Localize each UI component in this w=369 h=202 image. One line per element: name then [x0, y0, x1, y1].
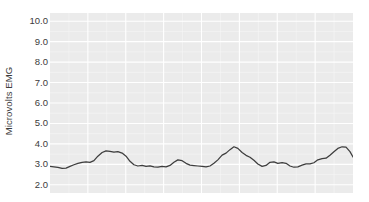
y-tick-label: 7.0	[16, 78, 48, 88]
y-tick-label: 4.0	[16, 139, 48, 149]
y-axis-title: Microvolts EMG	[0, 0, 16, 202]
y-tick-label: 2.0	[16, 180, 48, 190]
y-tick-label: 6.0	[16, 98, 48, 108]
plot-panel	[50, 13, 353, 193]
y-tick-label: 10.0	[16, 16, 48, 26]
y-axis-tick-labels: 10.09.08.07.06.05.04.03.02.0	[16, 0, 48, 202]
y-tick-label: 8.0	[16, 57, 48, 67]
emg-series-line	[50, 13, 353, 193]
y-tick-label: 3.0	[16, 159, 48, 169]
y-tick-label: 9.0	[16, 37, 48, 47]
emg-line-chart: Microvolts EMG 10.09.08.07.06.05.04.03.0…	[0, 0, 369, 202]
y-tick-label: 5.0	[16, 118, 48, 128]
series-path-emg	[50, 147, 353, 169]
